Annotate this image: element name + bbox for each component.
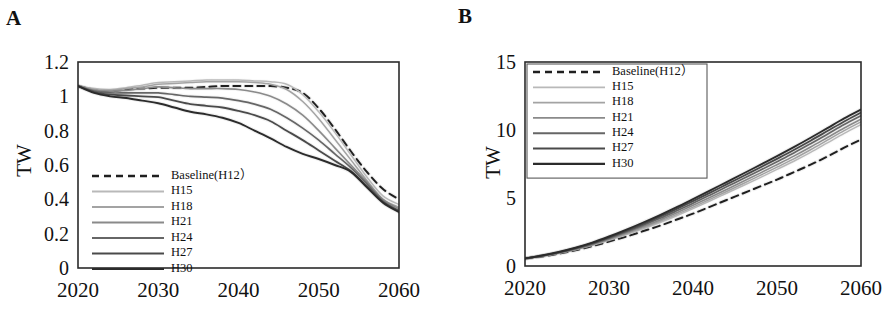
legend-label: H15 — [612, 79, 634, 93]
panel-a: A TW 00.20.40.60.811.2202020302040205020… — [0, 0, 445, 315]
legend-label: H30 — [612, 156, 634, 170]
y-tick-label: 0 — [59, 257, 69, 279]
x-tick-label: 2050 — [756, 276, 798, 300]
x-tick-label: 2030 — [137, 278, 179, 302]
x-tick-label: 2050 — [298, 278, 340, 302]
y-tick-label: 0.8 — [44, 120, 69, 142]
series-halo — [78, 86, 399, 199]
panel-b-plot: 05101520202030204020502060Baseline(H12）H… — [445, 0, 891, 315]
series-line-h27 — [525, 113, 861, 259]
x-tick-label: 2040 — [672, 276, 714, 300]
legend: Baseline(H12）H15H18H21H24H27H30 — [527, 64, 707, 178]
y-tick-label: 5 — [506, 187, 516, 209]
series-group — [525, 110, 861, 259]
x-tick-label: 2060 — [378, 278, 420, 302]
legend-label: H27 — [171, 245, 193, 259]
legend-label: H24 — [612, 125, 634, 139]
legend-label: Baseline(H12） — [171, 168, 253, 182]
legend: Baseline(H12）H15H18H21H24H27H30 — [92, 168, 253, 275]
x-tick-label: 2020 — [57, 278, 99, 302]
y-tick-label: 0.6 — [44, 154, 69, 176]
legend-label: H24 — [171, 230, 193, 244]
x-tick-label: 2030 — [588, 276, 630, 300]
legend-label: H21 — [171, 214, 193, 228]
legend-label: Baseline(H12） — [612, 64, 694, 78]
x-tick-label: 2040 — [218, 278, 260, 302]
x-tick-label: 2060 — [840, 276, 882, 300]
series-halo — [525, 113, 861, 259]
legend-label: H18 — [612, 94, 634, 108]
legend-label: H21 — [612, 110, 634, 124]
y-tick-label: 10 — [496, 119, 516, 141]
series-halo — [525, 110, 861, 259]
panel-b: B TW 05101520202030204020502060Baseline(… — [445, 0, 890, 315]
y-tick-label: 0.4 — [44, 188, 69, 210]
series-line-h30 — [525, 110, 861, 259]
y-tick-label: 15 — [496, 51, 516, 73]
y-tick-label: 1.2 — [44, 51, 69, 73]
y-tick-label: 0.2 — [44, 223, 69, 245]
x-tick-label: 2020 — [504, 276, 546, 300]
series-line-h21 — [78, 86, 399, 209]
y-tick-label: 0 — [506, 255, 516, 277]
legend-label: H30 — [171, 261, 193, 275]
legend-label: H18 — [171, 199, 193, 213]
y-tick-label: 1 — [59, 85, 69, 107]
figure-container: A TW 00.20.40.60.811.2202020302040205020… — [0, 0, 891, 315]
legend-label: H15 — [171, 183, 193, 197]
panel-a-plot: 00.20.40.60.811.220202030204020502060Bas… — [0, 0, 445, 315]
series-halo — [78, 86, 399, 209]
series-line-baselineh12 — [78, 86, 399, 199]
legend-label: H27 — [612, 140, 634, 154]
